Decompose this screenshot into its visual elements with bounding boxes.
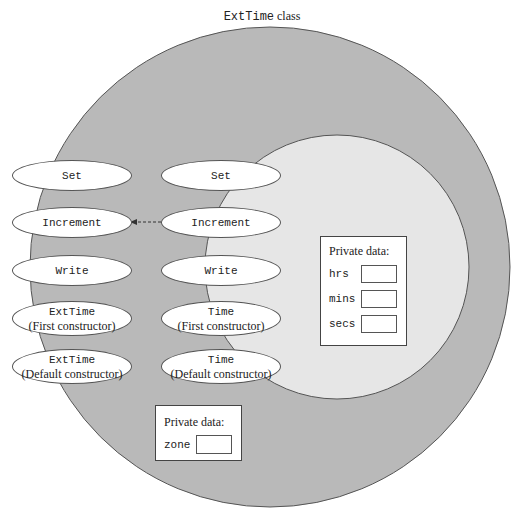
field-zone-label: zone [164, 439, 190, 451]
method-name: Time [208, 353, 234, 367]
method-name: Increment [191, 216, 250, 230]
field-zone-value [196, 435, 232, 454]
time-first-constructor[interactable]: Time (First constructor) [161, 301, 281, 336]
class-name: ExtTime [224, 10, 274, 24]
ext-default-constructor[interactable]: ExtTime (Default constructor) [12, 349, 132, 384]
diagram-canvas: ExtTime class Set Increment Write ExtTim… [0, 0, 524, 517]
method-name: Write [55, 264, 88, 278]
method-name: Write [204, 264, 237, 278]
method-name: ExtTime [49, 353, 95, 367]
method-note: (Default constructor) [171, 367, 272, 381]
field-mins-value [361, 290, 397, 308]
private-data-label: Private data: [164, 415, 224, 430]
ext-set-method[interactable]: Set [12, 160, 132, 191]
time-set-method[interactable]: Set [161, 160, 281, 191]
method-note: (First constructor) [29, 319, 116, 333]
method-name: Increment [42, 216, 101, 230]
method-note: (First constructor) [178, 319, 265, 333]
field-secs-value [361, 315, 397, 333]
ext-first-constructor[interactable]: ExtTime (First constructor) [12, 301, 132, 336]
method-name: ExtTime [49, 305, 95, 319]
method-name: Set [62, 169, 82, 183]
method-note: (Default constructor) [22, 367, 123, 381]
private-data-label: Private data: [329, 244, 389, 259]
method-name: Time [208, 305, 234, 319]
time-default-constructor[interactable]: Time (Default constructor) [161, 349, 281, 384]
field-secs-label: secs [329, 318, 355, 330]
ext-private-data-box: Private data: zone [155, 405, 242, 461]
time-private-data-box: Private data: hrs mins secs [320, 236, 407, 346]
field-hrs-label: hrs [329, 268, 349, 280]
class-suffix: class [274, 9, 300, 23]
time-write-method[interactable]: Write [161, 255, 281, 286]
method-name: Set [211, 169, 231, 183]
time-increment-method[interactable]: Increment [161, 207, 281, 238]
diagram-title: ExtTime class [0, 9, 524, 24]
field-hrs-value [361, 265, 397, 283]
ext-write-method[interactable]: Write [12, 255, 132, 286]
field-mins-label: mins [329, 293, 355, 305]
ext-increment-method[interactable]: Increment [12, 207, 132, 238]
